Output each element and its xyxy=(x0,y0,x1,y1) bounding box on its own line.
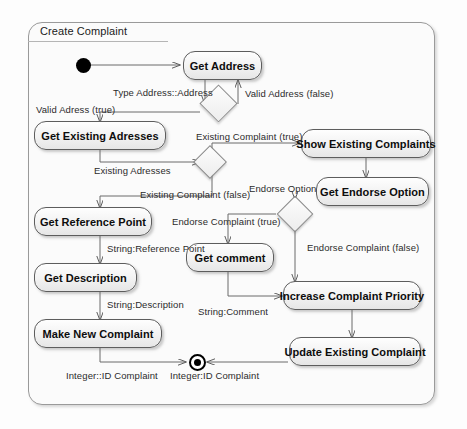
node-get-endorse-option-label: Get Endorse Option xyxy=(320,186,425,198)
node-increase-complaint-priority[interactable]: Increase Complaint Priority xyxy=(283,281,421,310)
node-update-existing-complaint[interactable]: Update Existing Complaint xyxy=(289,337,421,366)
node-get-existing-addresses-label: Get Existing Adresses xyxy=(41,130,158,142)
edge-label-string-description: String:Description xyxy=(107,299,184,310)
node-get-description[interactable]: Get Description xyxy=(34,263,137,292)
edge-label-type-address: Type Address::Address xyxy=(113,87,213,98)
node-get-existing-addresses[interactable]: Get Existing Adresses xyxy=(34,121,166,150)
edge-label-integer-id-complaint-left: Integer::ID Complaint xyxy=(66,370,158,381)
edge-label-endorse-complaint-false: Endorse Complaint (false) xyxy=(307,242,419,253)
edge-label-valid-address-true: Valid Adress (true) xyxy=(36,104,115,115)
final-node-inner xyxy=(194,359,201,366)
activity-frame-title: Create Complaint xyxy=(40,25,127,37)
edge-label-existing-complaint-true: Existing Complaint (true) xyxy=(196,131,303,142)
node-get-description-label: Get Description xyxy=(44,272,127,284)
node-make-new-complaint-label: Make New Complaint xyxy=(43,328,154,340)
node-increase-complaint-priority-label: Increase Complaint Priority xyxy=(280,290,424,302)
node-make-new-complaint[interactable]: Make New Complaint xyxy=(34,319,162,348)
node-get-endorse-option[interactable]: Get Endorse Option xyxy=(316,177,429,206)
edge-label-string-comment: String:Comment xyxy=(198,306,268,317)
node-get-comment-label: Get comment xyxy=(195,252,266,264)
node-get-address-label: Get Address xyxy=(190,60,256,72)
node-show-existing-complaints[interactable]: Show Existing Complaints xyxy=(301,129,431,158)
node-update-existing-complaint-label: Update Existing Complaint xyxy=(284,346,425,358)
edge-label-string-reference-point: String:Reference Point xyxy=(107,243,205,254)
edge-label-endorse-option: Endorse Option xyxy=(249,183,316,194)
edge-label-valid-address-false: Valid Address (false) xyxy=(245,88,334,99)
final-node xyxy=(189,354,206,371)
edge-label-existing-addresses: Existing Adresses xyxy=(94,165,171,176)
edge-label-existing-complaint-false: Existing Complaint (false) xyxy=(140,189,250,200)
activity-diagram-canvas: Create Complaint xyxy=(0,0,467,429)
edge-label-integer-id-complaint-right: Integer:ID Complaint xyxy=(170,370,259,381)
node-get-reference-point[interactable]: Get Reference Point xyxy=(34,207,152,236)
node-show-existing-complaints-label: Show Existing Complaints xyxy=(296,138,435,150)
node-get-reference-point-label: Get Reference Point xyxy=(40,216,146,228)
edge-label-endorse-complaint-true: Endorse Complaint (true) xyxy=(172,216,281,227)
node-get-address[interactable]: Get Address xyxy=(183,51,262,80)
initial-node xyxy=(76,58,91,73)
